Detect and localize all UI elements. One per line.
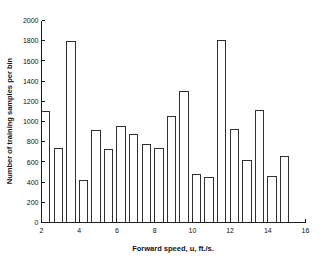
y-tick-label: 1000 [23,118,39,125]
histogram-bar [217,40,225,222]
x-tick-label: 10 [189,227,197,234]
x-tick-label: 14 [264,227,272,234]
histogram-bar [280,156,288,222]
x-axis-label: Forward speed, u, ft./s. [132,244,214,253]
x-tick-label: 4 [77,227,81,234]
histogram-chart: 0200400600800100012001400160018002000 24… [0,0,323,263]
histogram-bar [104,150,112,223]
x-tick-label: 2 [40,227,44,234]
histogram-bar [268,176,276,222]
y-tick-label: 200 [27,199,39,206]
histogram-bar [192,175,200,223]
x-tick-label: 8 [153,227,157,234]
y-tick-label: 2000 [23,17,39,24]
histogram-bar [180,91,188,222]
y-tick-label: 1400 [23,78,39,85]
histogram-bar [230,129,238,222]
histogram-bar [205,178,213,223]
histogram-bar [42,111,50,222]
y-tick-label: 1800 [23,37,39,44]
histogram-bar [117,127,125,223]
x-tick-label: 16 [302,227,310,234]
histogram-bar [67,42,75,223]
histogram-bar [79,181,87,223]
y-tick-label: 0 [35,219,39,226]
histogram-bar [243,161,251,223]
y-tick-label: 1600 [23,58,39,65]
histogram-bar [92,130,100,222]
y-tick-label: 400 [27,179,39,186]
x-tick-label: 6 [115,227,119,234]
chart-figure: 0200400600800100012001400160018002000 24… [0,0,323,263]
y-tick-label: 1200 [23,98,39,105]
histogram-bar [54,149,62,223]
x-tick-label: 12 [226,227,234,234]
histogram-bar [167,116,175,222]
histogram-bar [129,134,137,222]
histogram-bar [142,145,150,223]
histogram-bar [155,149,163,223]
y-tick-label: 600 [27,159,39,166]
y-tick-label: 800 [27,138,39,145]
histogram-bar [255,111,263,223]
y-axis-label: Number of training samples per bin [5,57,14,184]
